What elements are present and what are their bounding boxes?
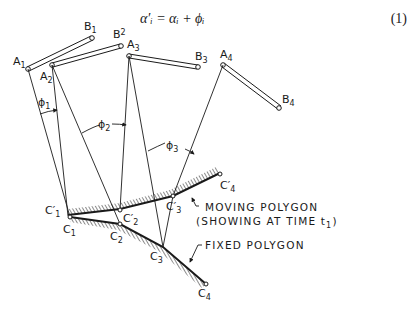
label-B3: B3 [195, 50, 208, 65]
label-phi3: ϕ3 [166, 139, 178, 154]
label-phi2: ϕ2 [98, 118, 110, 133]
label-C2: C2 [110, 230, 123, 245]
label-B4: B4 [282, 93, 295, 108]
leader-lines [190, 198, 202, 262]
crank-4 [221, 63, 282, 111]
label-C4-prime: C′4 [220, 179, 235, 194]
crank-3 [127, 54, 201, 70]
moving-polygon-sublabel: (SHOWING AT TIME t1) [196, 215, 338, 230]
label-A3: A3 [127, 38, 140, 53]
crank-bars [26, 36, 282, 111]
moving-polygon [68, 167, 222, 215]
label-B1: B1 [84, 20, 97, 35]
label-C1-prime: C′1 [45, 204, 60, 219]
label-B2: B2 [113, 28, 126, 41]
crank-1 [26, 36, 95, 72]
label-A2: A2 [40, 70, 53, 85]
label-C2-prime: C′2 [123, 212, 138, 227]
moving-polygon-label: MOVING POLYGON [205, 201, 318, 213]
linkage-diagram: A1 A2 A3 A4 B1 B2 B3 B4 C1 C2 C3 C4 C′1 … [0, 0, 417, 312]
label-A4: A4 [220, 48, 233, 63]
fixed-polygon-label: FIXED POLYGON [205, 239, 305, 251]
label-C1: C1 [63, 223, 76, 238]
label-A1: A1 [13, 55, 26, 70]
label-phi1: ϕ1 [38, 96, 50, 111]
label-C4: C4 [198, 287, 211, 302]
label-C3-prime: C′3 [166, 200, 181, 215]
